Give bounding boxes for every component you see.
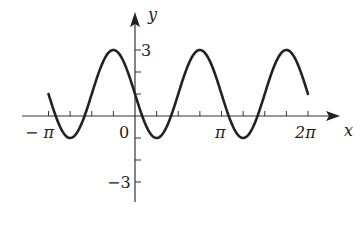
chart-canvas: y x − π 0 π 2π 3 −3: [0, 0, 360, 225]
x-ticks: [49, 111, 309, 116]
x-tick-label-zero: 0: [119, 123, 129, 142]
x-tick-label-pi: π: [214, 123, 226, 142]
y-tick-label-neg-three: −3: [107, 173, 131, 192]
y-tick-label-three: 3: [141, 41, 151, 60]
x-axis-label: x: [344, 121, 353, 140]
function-curve: [49, 50, 309, 138]
y-axis-label: y: [147, 5, 158, 24]
x-tick-label-two-pi: 2π: [294, 123, 316, 142]
x-tick-label-neg-pi: − π: [25, 123, 54, 142]
